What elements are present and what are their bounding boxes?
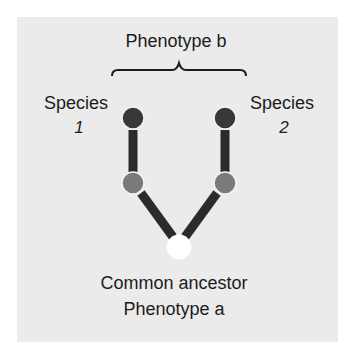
species1-tip-node	[122, 107, 144, 129]
species1-name: Species	[44, 93, 108, 113]
species1-number: 1	[74, 118, 83, 138]
top-phenotype-label: Phenotype b	[125, 31, 226, 51]
ancestor-label: Common ancestor	[100, 273, 247, 293]
species2-tip-node	[214, 107, 236, 129]
common-ancestor-node	[167, 235, 192, 260]
ancestor-phenotype-label: Phenotype a	[123, 299, 224, 319]
grouping-brace	[112, 63, 246, 76]
species2-name: Species	[250, 93, 314, 113]
species2-intermediate-node	[214, 172, 236, 194]
branch-species2-lower	[185, 193, 217, 237]
branch-species1-lower	[141, 193, 173, 237]
species2-number: 2	[279, 118, 288, 138]
species1-intermediate-node	[122, 172, 144, 194]
branches	[133, 130, 225, 237]
